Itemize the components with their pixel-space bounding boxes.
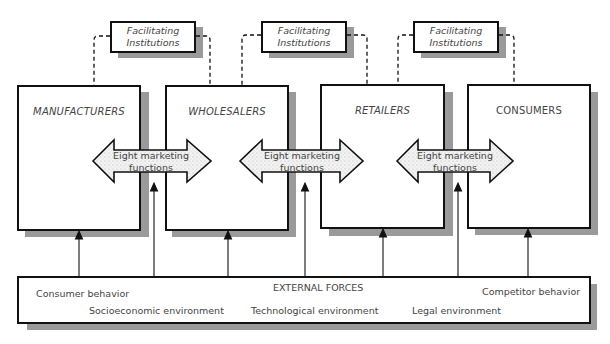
arrow-label-line2: functions [262,162,342,174]
arrow-label-line1: Eight marketing [416,150,494,162]
arrow-label-line2: functions [112,162,190,174]
marketing-arrow-3-label: Eight marketing functions [416,150,494,174]
dashed-connectors [94,35,514,85]
external-force-arrows [76,183,532,276]
marketing-arrow-1-label: Eight marketing functions [112,150,190,174]
arrow-label-line1: Eight marketing [112,150,190,162]
marketing-arrow-2-label: Eight marketing functions [262,150,342,174]
arrow-label-line2: functions [416,162,494,174]
arrow-label-line1: Eight marketing [262,150,342,162]
